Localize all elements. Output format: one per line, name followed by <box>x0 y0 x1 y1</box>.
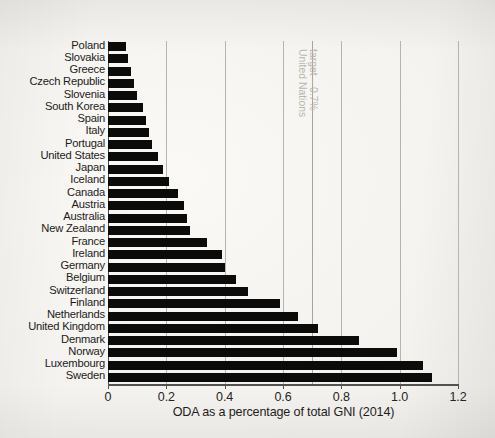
bar-row: Finland <box>108 298 458 309</box>
bar-row: Spain <box>108 115 458 126</box>
category-label: Belgium <box>66 271 105 283</box>
category-label: Portugal <box>65 137 105 149</box>
bar <box>108 324 318 333</box>
bar <box>108 348 397 357</box>
x-tick <box>400 384 401 389</box>
x-axis-title: ODA as a percentage of total GNI (2014) <box>108 405 459 419</box>
x-tick <box>341 384 342 389</box>
bar <box>108 67 131 76</box>
category-label: France <box>71 235 105 247</box>
gridline-1.2 <box>458 41 459 384</box>
category-label: Norway <box>68 345 105 357</box>
bar <box>108 165 163 174</box>
bar-row: United States <box>108 151 458 162</box>
x-tick <box>108 384 109 389</box>
bar-row: Greece <box>108 66 458 77</box>
bar <box>108 312 298 321</box>
bar-row: Switzerland <box>108 286 458 297</box>
bar <box>108 201 184 210</box>
x-tick-label: 1.0 <box>391 390 408 404</box>
bar-row: Iceland <box>108 176 458 187</box>
category-label: Slovenia <box>64 88 105 100</box>
category-label: Slovakia <box>64 51 105 63</box>
category-label: Switzerland <box>49 284 105 296</box>
x-tick <box>225 384 226 389</box>
bar-row: Norway <box>108 347 458 358</box>
bar <box>108 152 158 161</box>
category-label: Finland <box>70 296 105 308</box>
bars-layer: PolandSlovakiaGreeceCzech RepublicSloven… <box>108 41 458 384</box>
bar <box>108 116 146 125</box>
bar <box>108 299 280 308</box>
bar <box>108 103 143 112</box>
bar-row: Luxembourg <box>108 360 458 371</box>
un-target-annotation-line1: United Nations <box>297 49 308 117</box>
bar-row: New Zealand <box>108 225 458 236</box>
bar-row: Portugal <box>108 139 458 150</box>
x-tick <box>458 384 459 389</box>
category-label: South Korea <box>45 100 105 112</box>
category-label: Germany <box>60 259 105 271</box>
x-tick-label: 0.8 <box>333 390 350 404</box>
bar <box>108 128 149 137</box>
bar-row: Czech Republic <box>108 78 458 89</box>
bar-row: Netherlands <box>108 311 458 322</box>
bar-row: United Kingdom <box>108 323 458 334</box>
bar-row: Sweden <box>108 372 458 383</box>
bar <box>108 238 207 247</box>
bar <box>108 189 178 198</box>
bar-row: Poland <box>108 41 458 52</box>
category-label: Luxembourg <box>45 357 105 369</box>
category-label: Greece <box>70 63 106 75</box>
x-tick <box>283 384 284 389</box>
bar <box>108 361 423 370</box>
bar-row: Australia <box>108 213 458 224</box>
bar <box>108 275 236 284</box>
bar-row: Ireland <box>108 249 458 260</box>
x-tick-label: 0 <box>105 390 112 404</box>
category-label: Ireland <box>72 247 105 259</box>
category-label: Canada <box>67 186 105 198</box>
x-tick-label: 0.2 <box>158 390 175 404</box>
category-label: United Kingdom <box>28 320 105 332</box>
category-label: Australia <box>63 210 105 222</box>
category-label: Japan <box>76 161 105 173</box>
bar <box>108 214 187 223</box>
category-label: Sweden <box>66 369 105 381</box>
category-label: Czech Republic <box>29 75 105 87</box>
bar-row: Austria <box>108 200 458 211</box>
x-tick-label: 0.6 <box>274 390 291 404</box>
category-label: Netherlands <box>47 308 105 320</box>
x-tick-label: 0.4 <box>216 390 233 404</box>
category-label: United States <box>40 149 105 161</box>
bar <box>108 287 248 296</box>
bar <box>108 42 126 51</box>
bar <box>108 140 152 149</box>
bar <box>108 263 225 272</box>
bar-row: Denmark <box>108 335 458 346</box>
category-label: Poland <box>71 39 105 51</box>
bar-chart: PolandSlovakiaGreeceCzech RepublicSloven… <box>0 0 495 438</box>
category-label: Spain <box>77 112 105 124</box>
bar-row: Italy <box>108 127 458 138</box>
bar-row: Slovakia <box>108 53 458 64</box>
un-target-annotation-line2: target – 0.7% <box>308 49 319 111</box>
bar <box>108 226 190 235</box>
bar <box>108 373 432 382</box>
bar <box>108 250 222 259</box>
bar-row: Japan <box>108 164 458 175</box>
bar <box>108 177 169 186</box>
bar-row: France <box>108 237 458 248</box>
category-label: Iceland <box>70 173 105 185</box>
category-label: Austria <box>72 198 105 210</box>
bar <box>108 79 134 88</box>
bar-row: Canada <box>108 188 458 199</box>
bar-row: Germany <box>108 262 458 273</box>
x-tick-label: 1.2 <box>449 390 466 404</box>
bar <box>108 336 359 345</box>
x-tick <box>166 384 167 389</box>
bar <box>108 54 128 63</box>
category-label: Denmark <box>61 333 105 345</box>
bar-row: Slovenia <box>108 90 458 101</box>
category-label: Italy <box>85 124 105 136</box>
